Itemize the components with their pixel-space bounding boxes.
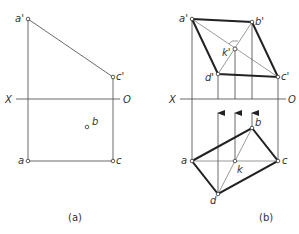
panel-b: X O a' b' c' d' <box>168 13 296 223</box>
label-a-prime: a' <box>179 13 188 24</box>
label-d: d <box>210 195 217 206</box>
point-a-prime <box>26 17 30 21</box>
axis-o-label: O <box>123 94 131 105</box>
point-c-prime <box>276 75 280 79</box>
point-d <box>216 192 220 196</box>
label-k-prime: k' <box>222 47 231 58</box>
label-d-prime: d' <box>205 72 214 83</box>
point-k-prime <box>233 47 237 51</box>
label-a: a <box>181 155 187 166</box>
projection-diagram: X O a' c' a c b (a) X O <box>0 0 299 234</box>
caption-b: (b) <box>259 212 273 223</box>
point-c <box>276 159 280 163</box>
point-c-prime <box>111 75 115 79</box>
axis-o-label: O <box>288 94 296 105</box>
label-c-prime: c' <box>281 71 289 82</box>
point-a-prime <box>190 17 194 21</box>
point-b-prime <box>250 20 254 24</box>
point-b <box>250 126 254 130</box>
label-b: b <box>92 116 98 127</box>
label-k: k <box>237 164 244 175</box>
point-c <box>111 159 115 163</box>
label-b-prime: b' <box>255 16 264 27</box>
caption-a: (a) <box>68 212 82 223</box>
label-b: b <box>255 117 261 128</box>
point-a <box>26 159 30 163</box>
label-c: c <box>282 155 288 166</box>
line-a-prime-c-prime <box>28 19 113 77</box>
label-a: a <box>18 155 24 166</box>
panel-a: X O a' c' a c b (a) <box>4 13 131 223</box>
right-angle-mark <box>229 41 238 44</box>
point-a <box>190 159 194 163</box>
point-k <box>233 159 237 163</box>
axis-x-label: X <box>4 94 13 105</box>
point-b <box>85 125 89 129</box>
label-a-prime: a' <box>15 13 24 24</box>
label-c: c <box>116 155 122 166</box>
point-d-prime <box>216 72 220 76</box>
axis-x-label: X <box>168 94 177 105</box>
label-c-prime: c' <box>116 71 124 82</box>
